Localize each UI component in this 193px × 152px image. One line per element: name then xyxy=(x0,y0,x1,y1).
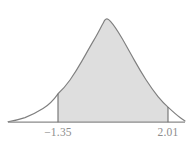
normal-distribution-figure: −1.35 2.01 xyxy=(0,0,193,152)
shaded-region-area xyxy=(58,19,168,122)
left-tail-area xyxy=(8,94,58,122)
lower-bound-tick-label: −1.35 xyxy=(44,127,72,139)
upper-bound-tick-label: 2.01 xyxy=(158,127,179,139)
